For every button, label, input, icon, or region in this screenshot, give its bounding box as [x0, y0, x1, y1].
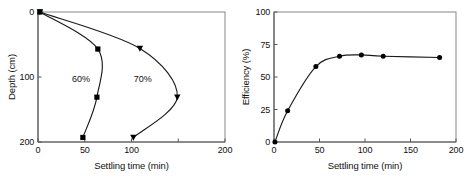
- y-tick-label: 25: [260, 105, 270, 115]
- depth-vs-settling-time-plot: [0, 0, 234, 183]
- efficiency-vs-settling-time-plot: [234, 0, 468, 183]
- data-point-Efficiency: [337, 54, 342, 59]
- plot-frame: [38, 12, 225, 142]
- x-tick-label: 50: [315, 145, 325, 155]
- right-y-axis-title: Efficiency (%): [240, 49, 251, 106]
- y-tick-label: 0: [265, 137, 270, 147]
- data-point-Efficiency: [381, 54, 386, 59]
- x-tick-label: 0: [272, 145, 277, 155]
- x-tick-label: 200: [449, 145, 463, 155]
- y-tick-label: 100: [256, 7, 270, 17]
- y-tick-label: 50: [260, 72, 270, 82]
- series-annotation-70pct: 70%: [134, 74, 152, 84]
- series-curve-Efficiency: [275, 55, 440, 142]
- left-x-axis-title: Settling time (min): [94, 160, 169, 171]
- series-annotation-60pct: 60%: [72, 74, 90, 84]
- x-tick-label: 50: [80, 145, 90, 155]
- y-tick-label: 100: [20, 72, 34, 82]
- data-point-Efficiency: [285, 108, 290, 113]
- left-y-axis-title: Depth (cm): [6, 54, 17, 100]
- y-tick-label: 75: [260, 40, 270, 50]
- data-point-Efficiency: [359, 52, 364, 57]
- x-tick-label: 0: [36, 145, 41, 155]
- data-point-Efficiency: [437, 55, 442, 60]
- x-tick-label: 200: [218, 145, 232, 155]
- data-point-70pct: [137, 46, 143, 52]
- figure-container: Depth (cm) Settling time (min) 050100200…: [0, 0, 468, 183]
- y-tick-label: 200: [20, 137, 34, 147]
- data-point-60pct: [80, 135, 85, 140]
- data-point-60pct: [94, 95, 99, 100]
- y-tick-label: 0: [29, 7, 34, 17]
- data-point-70pct: [174, 94, 180, 100]
- x-tick-label: 100: [358, 145, 372, 155]
- data-point-Efficiency: [272, 140, 277, 145]
- series-curve-70pct: [40, 12, 177, 137]
- plot-frame: [274, 12, 456, 142]
- chart-panel-depth: Depth (cm) Settling time (min) 050100200…: [0, 0, 234, 183]
- x-tick-label: 100: [124, 145, 138, 155]
- data-point-60pct: [95, 46, 100, 51]
- chart-panel-efficiency: Efficiency (%) Settling time (min) 05010…: [234, 0, 468, 183]
- data-point-Efficiency: [313, 64, 318, 69]
- x-tick-label: 150: [403, 145, 417, 155]
- right-x-axis-title: Settling time (min): [328, 160, 403, 171]
